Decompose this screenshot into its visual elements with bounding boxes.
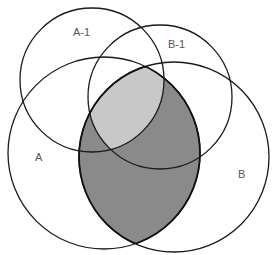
label-a: A: [35, 151, 43, 163]
label-a1: A-1: [73, 26, 90, 38]
label-b: B: [238, 168, 245, 180]
label-b1: B-1: [168, 38, 185, 50]
venn-diagram: A-1 B-1 A B: [0, 0, 276, 255]
